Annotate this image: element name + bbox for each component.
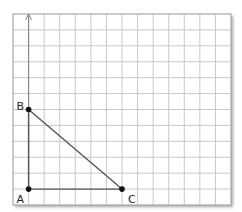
point-A bbox=[26, 186, 32, 192]
point-B bbox=[26, 107, 32, 113]
diagram-canvas: ABC bbox=[0, 0, 242, 212]
point-label-C: C bbox=[128, 193, 136, 206]
point-C bbox=[119, 186, 125, 192]
point-label-B: B bbox=[17, 100, 25, 113]
point-label-A: A bbox=[17, 193, 25, 206]
